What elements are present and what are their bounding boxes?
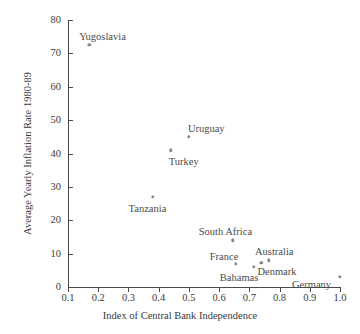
data-point-label: Bahamas [220, 272, 259, 283]
x-axis-tick-label: 0.9 [295, 293, 325, 304]
y-axis-tick-label: 30 [51, 182, 62, 193]
scatter-chart: 01020304050607080 0.10.20.30.40.50.60.70… [0, 0, 360, 334]
plot-area [68, 20, 340, 287]
y-axis-tick-label: 80 [51, 15, 62, 26]
x-axis-tick-label: 0.4 [144, 293, 174, 304]
y-axis-tick-label: 10 [51, 249, 62, 260]
y-axis-tick-label: 40 [51, 149, 62, 160]
data-point-label: Australia [255, 246, 294, 257]
data-point-label: Yugoslavia [79, 31, 126, 42]
x-axis-tick-label: 0.2 [83, 293, 113, 304]
data-point-label: South Africa [199, 226, 252, 237]
x-axis-tick-label: 0.5 [174, 293, 204, 304]
y-axis-tick-label: 20 [51, 215, 62, 226]
y-axis-label: Average Yearly Inflation Rate 1980-89 [22, 20, 36, 287]
x-axis-tick-label: 1.0 [325, 293, 355, 304]
data-point-label: Denmark [257, 266, 296, 277]
data-point[interactable] [338, 275, 341, 278]
data-point-label: Germany [292, 279, 331, 290]
data-point-label: Turkey [169, 156, 199, 167]
y-axis-tick-label: 50 [51, 115, 62, 126]
y-axis-tick-label: 60 [51, 82, 62, 93]
x-axis-tick-label: 0.1 [53, 293, 83, 304]
x-axis-tick-label: 0.6 [204, 293, 234, 304]
x-axis-tick-label: 0.7 [234, 293, 264, 304]
y-axis-tick-label: 70 [51, 48, 62, 59]
x-axis-tick-label: 0.8 [265, 293, 295, 304]
data-point-label: Uruguay [188, 123, 225, 134]
x-axis-tick-label: 0.3 [113, 293, 143, 304]
data-point-label: Tanzania [129, 203, 167, 214]
x-axis-label: Index of Central Bank Independence [0, 310, 360, 321]
y-axis-tick-label: 0 [56, 282, 61, 293]
data-point-label: France [210, 251, 239, 262]
